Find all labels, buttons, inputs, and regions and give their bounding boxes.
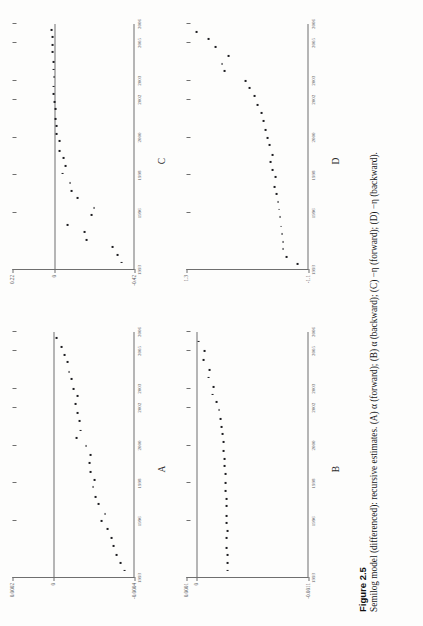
x-axis-tick-label: 2002 <box>136 95 141 105</box>
panel-b-plot: 0.00010-0.001119931996199820002002200320… <box>186 332 308 578</box>
y-axis-tick-label: -0.0004 <box>131 583 136 599</box>
panel-d-letter: D <box>330 18 340 304</box>
x-axis-tick <box>12 577 16 578</box>
data-point <box>52 93 54 95</box>
data-point <box>66 361 68 363</box>
x-axis-tick <box>186 269 190 270</box>
panel-d-plot: 1.3-1.119931996199820002002200320052006 <box>186 24 308 270</box>
data-point <box>79 429 81 431</box>
data-point <box>222 450 224 452</box>
data-point <box>93 207 95 209</box>
data-point <box>271 154 273 156</box>
figure-stage: 0.00020-0.000419931996199820002002200320… <box>0 0 423 626</box>
data-point <box>277 201 279 203</box>
data-point <box>75 437 77 439</box>
data-point <box>225 515 227 517</box>
data-point <box>52 86 54 88</box>
data-point <box>260 112 262 114</box>
data-point <box>74 403 76 405</box>
x-axis-tick <box>12 80 16 81</box>
x-axis-tick <box>186 350 190 351</box>
data-point <box>223 70 225 72</box>
data-point <box>225 505 227 507</box>
x-axis-tick <box>186 99 190 100</box>
x-axis <box>133 24 134 270</box>
x-axis-tick-label: 2000 <box>310 133 315 143</box>
data-point <box>66 224 68 226</box>
x-axis-tick-label: 2002 <box>136 403 141 413</box>
data-point <box>112 545 114 547</box>
data-point <box>104 513 106 515</box>
x-axis-tick <box>186 577 190 578</box>
data-point <box>52 68 54 70</box>
data-point <box>55 337 57 339</box>
data-point <box>85 239 87 241</box>
data-point <box>226 522 228 524</box>
data-point <box>64 354 66 356</box>
y-axis <box>12 577 134 578</box>
x-axis-tick <box>186 445 190 446</box>
data-point <box>227 55 229 57</box>
data-point <box>278 209 280 211</box>
data-point <box>223 458 225 460</box>
panel-d: 1.3-1.119931996199820002002200320052006 … <box>182 18 342 304</box>
data-point <box>268 144 270 146</box>
data-point <box>262 120 264 122</box>
y-axis-tick <box>134 269 135 273</box>
data-point <box>203 350 205 352</box>
x-axis-tick <box>12 350 16 351</box>
data-point <box>224 490 226 492</box>
data-point <box>54 108 56 110</box>
figure-panels: 0.00020-0.000419931996199820002002200320… <box>0 0 350 626</box>
data-point <box>90 471 92 473</box>
data-point <box>55 125 57 127</box>
x-axis-tick <box>186 407 190 408</box>
data-point <box>83 231 85 233</box>
y-axis-tick-label: -1.1 <box>305 275 310 283</box>
data-point <box>221 63 223 65</box>
x-axis-tick-label: 1998 <box>310 170 315 180</box>
data-point <box>69 182 71 184</box>
data-point <box>116 254 118 256</box>
x-axis-tick-label: 1996 <box>136 516 141 526</box>
data-point <box>256 104 258 106</box>
x-axis-tick-label: 1996 <box>310 516 315 526</box>
x-axis-tick-label: 2002 <box>310 95 315 105</box>
figure-caption: Figure 2.5 Semilog model (differenced): … <box>356 12 379 612</box>
panel-a-letter: A <box>156 326 166 612</box>
x-axis-tick <box>12 407 16 408</box>
y-axis <box>12 269 134 270</box>
data-point <box>76 197 78 199</box>
data-point <box>224 473 226 475</box>
data-point <box>94 496 96 498</box>
x-axis-tick <box>186 174 190 175</box>
x-axis-tick <box>12 174 16 175</box>
panel-b-letter: B <box>330 326 340 612</box>
data-point <box>58 140 60 142</box>
data-point <box>212 386 214 388</box>
data-point <box>285 256 287 258</box>
data-point <box>93 479 95 481</box>
x-axis-tick-label: 2000 <box>136 441 141 451</box>
data-point <box>208 369 210 371</box>
x-axis-tick <box>12 520 16 521</box>
data-point <box>115 554 117 556</box>
x-axis-tick <box>12 331 16 332</box>
panel-a-plot: 0.00020-0.000419931996199820002002200320… <box>12 332 134 578</box>
data-point <box>78 420 80 422</box>
data-point <box>111 246 113 248</box>
x-axis-tick-label: 2000 <box>310 441 315 451</box>
x-axis-tick-label: 1993 <box>310 265 315 275</box>
zero-reference-line <box>53 332 54 578</box>
data-point <box>276 193 278 195</box>
x-axis-tick <box>12 445 16 446</box>
x-axis-tick <box>12 482 16 483</box>
figure-caption-text: Semilog model (differenced): recursive e… <box>368 12 379 612</box>
data-point <box>226 562 228 564</box>
data-point <box>264 129 266 131</box>
x-axis-tick <box>12 212 16 213</box>
x-axis-tick-label: 2002 <box>310 403 315 413</box>
data-point <box>222 441 224 443</box>
x-axis-tick <box>12 23 16 24</box>
y-axis-tick <box>308 269 309 273</box>
